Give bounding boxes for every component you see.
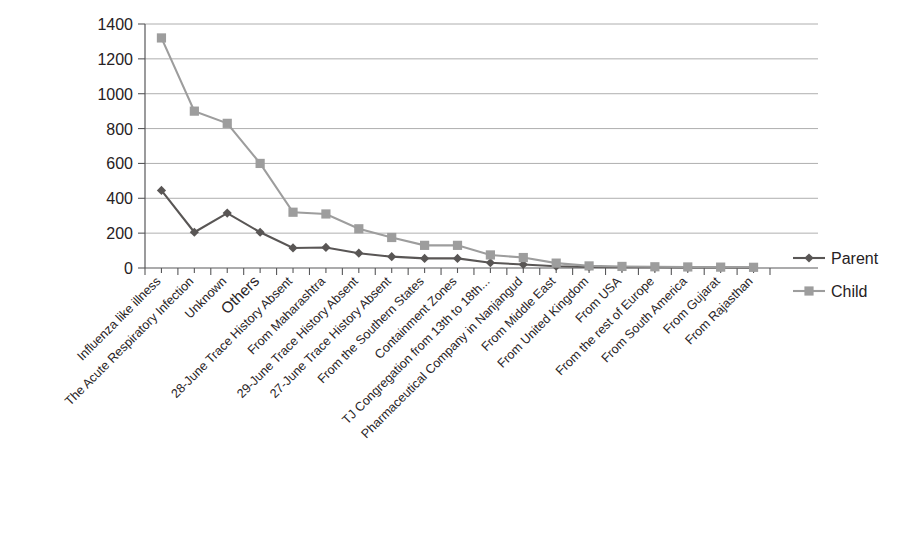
data-point-child	[157, 33, 166, 42]
data-point-child	[321, 209, 330, 218]
data-point-child	[584, 261, 593, 270]
data-point-child	[453, 241, 462, 250]
data-point-child	[617, 262, 626, 271]
chart-canvas: 0200400600800100012001400 Influenza like…	[0, 0, 905, 553]
data-point-child	[716, 263, 725, 272]
y-axis-tick-label: 0	[124, 260, 133, 277]
data-point-parent	[321, 243, 330, 252]
data-point-parent	[420, 254, 429, 263]
y-axis-tick-label: 800	[106, 121, 133, 138]
y-axis-tick-label: 1400	[97, 16, 133, 33]
y-axis-tick-label: 1000	[97, 86, 133, 103]
x-axis-tick-marks	[145, 268, 770, 275]
data-point-parent	[486, 258, 495, 267]
legend-label-parent: Parent	[831, 250, 879, 267]
y-axis-tick-label: 400	[106, 190, 133, 207]
data-point-child	[288, 208, 297, 217]
data-point-child	[190, 107, 199, 116]
chart-legend: ParentChild	[793, 250, 879, 300]
y-axis-tick-label: 600	[106, 155, 133, 172]
data-point-parent	[354, 249, 363, 258]
data-point-child	[683, 262, 692, 271]
data-point-child	[486, 250, 495, 259]
y-axis-tick-label: 200	[106, 225, 133, 242]
data-point-parent	[256, 228, 265, 237]
data-point-child	[749, 263, 758, 272]
legend-label-child: Child	[831, 283, 867, 300]
data-point-parent	[223, 209, 232, 218]
gridlines-group	[138, 24, 818, 268]
series-markers-group	[157, 33, 758, 272]
data-point-parent	[453, 254, 462, 263]
data-point-child	[387, 233, 396, 242]
line-chart: 0200400600800100012001400 Influenza like…	[0, 0, 905, 553]
data-point-child	[223, 119, 232, 128]
legend-marker-child	[804, 286, 813, 295]
legend-marker-parent	[804, 253, 813, 262]
data-point-child	[420, 241, 429, 250]
data-point-child	[354, 224, 363, 233]
data-point-child	[256, 159, 265, 168]
y-axis-tick-labels: 0200400600800100012001400	[97, 16, 133, 277]
y-axis-tick-label: 1200	[97, 51, 133, 68]
data-point-parent	[387, 252, 396, 261]
category-labels-group: Influenza like illnessThe Acute Respirat…	[62, 272, 755, 441]
data-point-parent	[288, 243, 297, 252]
data-point-child	[519, 253, 528, 262]
data-point-child	[650, 262, 659, 271]
data-point-child	[552, 259, 561, 268]
